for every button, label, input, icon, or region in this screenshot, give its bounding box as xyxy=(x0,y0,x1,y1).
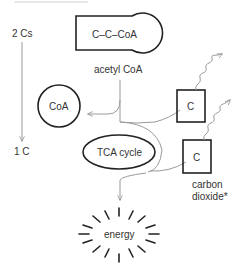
carbon-branch-1 xyxy=(120,110,180,123)
acetyl-coa-formula: C–C–CoA xyxy=(92,29,137,40)
carbon-dioxide-caption-line2: dioxide* xyxy=(192,191,228,202)
energy-arrow xyxy=(120,173,146,200)
tca-cycle-label: TCA cycle xyxy=(97,147,142,158)
burst-ray xyxy=(83,225,92,228)
label-1-c: 1 C xyxy=(14,146,30,157)
burst-ray xyxy=(105,249,109,257)
carbon-branch-2 xyxy=(150,162,186,171)
burst-ray xyxy=(93,216,100,222)
burst-ray xyxy=(146,240,155,243)
burst-ray xyxy=(138,246,145,252)
carbon-box-2-label: C xyxy=(193,152,200,163)
burst-ray xyxy=(105,211,109,219)
carbon-dioxide-caption-line1: carbon xyxy=(192,179,223,190)
burst-ray xyxy=(83,240,92,243)
energy-label: energy xyxy=(104,229,135,240)
coa-release-arrow xyxy=(88,80,120,114)
burst-ray xyxy=(138,216,145,222)
acetyl-coa-caption: acetyl CoA xyxy=(94,64,143,75)
acetyl-coa-tca-diagram: 2 Cs 1 C C–C–CoA acetyl CoA CoA TCA cycl… xyxy=(0,0,244,275)
co2-release-wave-2 xyxy=(204,100,230,140)
label-2-cs: 2 Cs xyxy=(12,28,33,39)
burst-ray xyxy=(129,211,133,219)
carbon-box-1-label: C xyxy=(187,101,194,112)
burst-ray xyxy=(93,246,100,252)
co2-release-wave-1 xyxy=(196,54,222,90)
burst-ray xyxy=(146,225,155,228)
burst-ray xyxy=(129,249,133,257)
coa-label: CoA xyxy=(49,101,69,112)
